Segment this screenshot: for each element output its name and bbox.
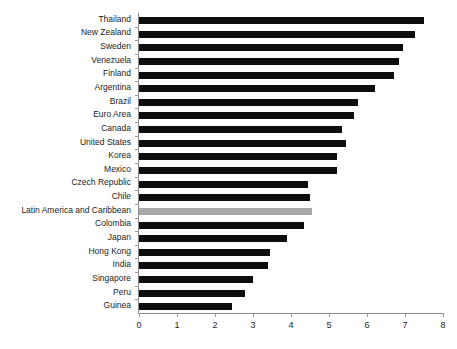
category-label: Sweden <box>100 42 131 51</box>
category-axis-labels: ThailandNew ZealandSwedenVenezuelaFinlan… <box>0 13 135 313</box>
category-label: Argentina <box>95 83 131 92</box>
x-axis-tick <box>405 313 406 317</box>
category-label: Hong Kong <box>88 247 131 256</box>
bar <box>139 276 253 283</box>
category-label: India <box>113 260 131 269</box>
bar <box>139 85 375 92</box>
category-label: Finland <box>103 69 131 78</box>
x-axis-tick-label: 1 <box>165 320 189 331</box>
x-axis-tick-label: 3 <box>241 320 265 331</box>
x-axis-tick <box>139 313 140 317</box>
bar <box>139 72 394 79</box>
category-label: Peru <box>113 288 131 297</box>
category-label: Singapore <box>92 274 131 283</box>
bar <box>139 290 245 297</box>
plot-area <box>139 13 443 313</box>
x-axis-tick <box>329 313 330 317</box>
category-label: Czech Republic <box>71 178 131 187</box>
bar <box>139 303 232 310</box>
category-label: Chile <box>112 192 131 201</box>
x-axis-tick <box>367 313 368 317</box>
bar <box>139 235 287 242</box>
bar <box>139 58 399 65</box>
bar <box>139 262 268 269</box>
x-axis-tick <box>291 313 292 317</box>
category-label: United States <box>80 138 131 147</box>
category-label: Brazil <box>110 97 131 106</box>
bar <box>139 181 308 188</box>
x-axis-tick <box>177 313 178 317</box>
bar <box>139 112 354 119</box>
bar <box>139 17 424 24</box>
bar <box>139 31 415 38</box>
category-label: New Zealand <box>81 28 131 37</box>
x-axis-tick <box>253 313 254 317</box>
x-axis-tick-label: 7 <box>393 320 417 331</box>
x-axis-tick-label: 0 <box>127 320 151 331</box>
category-label: Guinea <box>104 301 131 310</box>
x-axis-tick-label: 8 <box>431 320 455 331</box>
bar <box>139 249 270 256</box>
bar <box>139 208 312 215</box>
category-label: Euro Area <box>93 110 131 119</box>
category-label: Colombia <box>95 219 131 228</box>
x-axis-tick <box>443 313 444 317</box>
bar <box>139 194 310 201</box>
x-axis-tick-label: 5 <box>317 320 341 331</box>
category-label: Japan <box>108 233 131 242</box>
category-label: Mexico <box>104 165 131 174</box>
category-label: Venezuela <box>91 56 131 65</box>
category-label: Canada <box>101 124 131 133</box>
bar <box>139 153 337 160</box>
category-label: Korea <box>108 151 131 160</box>
bar <box>139 44 403 51</box>
bar <box>139 126 342 133</box>
x-axis-tick-label: 4 <box>279 320 303 331</box>
x-axis-tick-label: 6 <box>355 320 379 331</box>
category-label: Latin America and Caribbean <box>21 206 131 215</box>
bar <box>139 167 337 174</box>
bar <box>139 99 358 106</box>
bar <box>139 140 346 147</box>
bar-chart: ThailandNew ZealandSwedenVenezuelaFinlan… <box>0 0 457 349</box>
category-label: Thailand <box>98 15 131 24</box>
x-axis-tick-label: 2 <box>203 320 227 331</box>
x-axis-tick <box>215 313 216 317</box>
bar <box>139 222 304 229</box>
